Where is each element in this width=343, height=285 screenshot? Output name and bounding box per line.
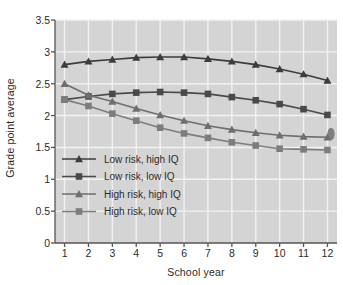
- x-axis-tick-label: 4: [133, 247, 139, 259]
- data-point-square: [157, 124, 164, 131]
- data-point-square: [109, 91, 116, 98]
- data-point-square: [252, 97, 259, 104]
- data-point-square: [205, 91, 212, 98]
- data-point-square: [300, 106, 307, 113]
- x-axis-tick-label: 5: [157, 247, 163, 259]
- data-point-square: [181, 130, 188, 137]
- x-axis-tick-label: 12: [322, 247, 334, 259]
- x-axis-tick-label: 11: [298, 247, 309, 259]
- legend-label: Low risk, high IQ: [104, 154, 179, 165]
- data-point-square: [324, 112, 331, 119]
- data-point-square: [252, 142, 259, 149]
- legend-label: High risk, high IQ: [104, 189, 181, 200]
- data-point-square: [61, 96, 68, 103]
- x-axis-tick-label: 2: [86, 247, 92, 259]
- data-point-square: [300, 146, 307, 153]
- plot-area: Low risk, high IQLow risk, low IQHigh ri…: [0, 0, 343, 285]
- legend-label: High risk, low IQ: [104, 206, 177, 217]
- data-point-square: [181, 89, 188, 96]
- data-point-square: [109, 110, 116, 117]
- data-point-square: [133, 117, 140, 124]
- x-axis-tick-label: 7: [205, 247, 211, 259]
- x-axis-tick-label: 1: [62, 247, 68, 259]
- data-point-square: [76, 208, 83, 215]
- data-point-square: [229, 139, 236, 146]
- data-point-square: [157, 89, 164, 96]
- data-point-square: [276, 145, 283, 152]
- data-point-square: [85, 103, 92, 110]
- scan-artifact: [327, 128, 334, 140]
- data-point-square: [76, 173, 83, 180]
- plot-background: [55, 20, 337, 243]
- legend-label: Low risk, low IQ: [104, 171, 175, 182]
- x-axis-tick-label: 8: [229, 247, 235, 259]
- data-point-square: [205, 135, 212, 142]
- data-point-square: [133, 89, 140, 96]
- x-axis-tick-label: 9: [253, 247, 259, 259]
- x-axis-tick-label: 10: [274, 247, 286, 259]
- data-point-square: [324, 147, 331, 154]
- data-point-square: [276, 101, 283, 108]
- x-axis-tick-label: 6: [181, 247, 187, 259]
- chart-container: Grade point average 00.511.522.533.5 Sch…: [0, 0, 343, 285]
- x-axis-tick-label: 3: [109, 247, 115, 259]
- data-point-square: [229, 94, 236, 101]
